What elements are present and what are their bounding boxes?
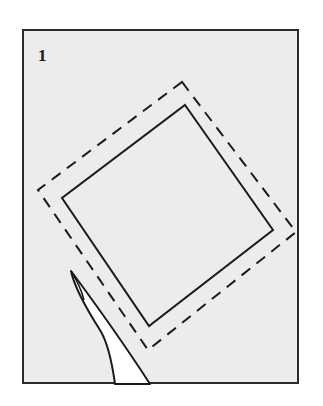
solid-square [62, 105, 273, 326]
dashed-cut-line [38, 82, 296, 350]
diagram-art [0, 0, 323, 406]
blade-tool-icon [71, 271, 150, 384]
